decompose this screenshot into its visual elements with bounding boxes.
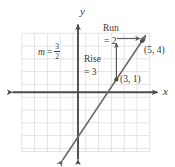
slope-graph-figure: y x m = 3 2 Run = 2 Rise = 3 (5, 4) (3, …: [0, 0, 175, 167]
point-label-3-1: (3, 1): [120, 75, 141, 85]
run-label-value: = 2: [104, 37, 116, 47]
slope-variable: m: [38, 48, 45, 58]
rise-label-word: Rise: [84, 55, 101, 65]
point-marker-3-1: [114, 77, 118, 81]
run-label-word: Run: [103, 24, 119, 34]
slope-numerator: 3: [54, 43, 60, 52]
coordinate-plane-svg: [0, 0, 175, 167]
slope-annotation: m = 3 2: [38, 44, 60, 61]
slope-equals: =: [47, 48, 52, 58]
y-axis-label: y: [80, 6, 85, 17]
slope-denominator: 2: [54, 52, 60, 60]
x-axis-label: x: [163, 86, 168, 97]
rise-label-value: = 3: [84, 68, 96, 78]
point-label-5-4: (5, 4): [144, 46, 165, 56]
point-marker-5-4: [140, 39, 144, 43]
slope-fraction: 3 2: [54, 43, 60, 60]
slope-line: [63, 35, 146, 160]
